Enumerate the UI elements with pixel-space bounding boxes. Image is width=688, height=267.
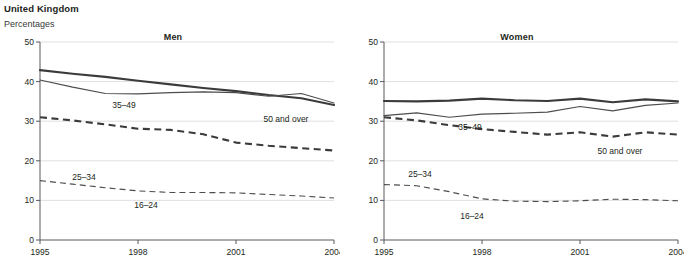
- svg-text:0: 0: [373, 235, 378, 245]
- series-label-50 and over: 50 and over: [264, 114, 309, 124]
- svg-text:20: 20: [25, 156, 35, 166]
- series-line-25-34: [384, 117, 678, 136]
- chart-panel-men: Men 01020304050199519982001200435–4950 a…: [6, 30, 340, 262]
- svg-text:2004: 2004: [669, 247, 684, 257]
- svg-text:40: 40: [25, 77, 35, 87]
- footnote: [0, 262, 688, 267]
- svg-text:50: 50: [25, 37, 35, 47]
- svg-text:1998: 1998: [129, 247, 148, 257]
- series-line-50 and over: [40, 80, 334, 103]
- series-label-16-24: 16–24: [134, 200, 158, 210]
- svg-text:20: 20: [369, 156, 379, 166]
- svg-text:2001: 2001: [227, 247, 246, 257]
- series-label-50 and over: 50 and over: [598, 146, 643, 156]
- page-title: United Kingdom: [4, 3, 79, 14]
- line-chart-women: 01020304050199519982001200435–4950 and o…: [350, 30, 684, 262]
- svg-text:10: 10: [369, 195, 379, 205]
- series-line-50 and over: [384, 103, 678, 117]
- series-label-35-49: 35–49: [458, 122, 482, 132]
- svg-text:10: 10: [25, 195, 35, 205]
- svg-text:1995: 1995: [375, 247, 394, 257]
- series-label-35-49: 35–49: [112, 100, 136, 110]
- svg-text:2001: 2001: [571, 247, 590, 257]
- svg-text:40: 40: [369, 77, 379, 87]
- series-label-25-34: 25–34: [72, 172, 96, 182]
- svg-text:50: 50: [369, 37, 379, 47]
- svg-text:0: 0: [29, 235, 34, 245]
- svg-text:30: 30: [25, 116, 35, 126]
- svg-text:1995: 1995: [31, 247, 50, 257]
- series-line-16-24: [384, 185, 678, 202]
- series-line-16-24: [40, 181, 334, 198]
- series-line-35-49: [40, 70, 334, 105]
- svg-text:1998: 1998: [473, 247, 492, 257]
- svg-text:30: 30: [369, 116, 379, 126]
- line-chart-men: 01020304050199519982001200435–4950 and o…: [6, 30, 340, 262]
- series-line-35-49: [384, 99, 678, 103]
- series-label-16-24: 16–24: [460, 211, 484, 221]
- series-label-25-34: 25–34: [408, 169, 432, 179]
- chart-panel-women: Women 01020304050199519982001200435–4950…: [350, 30, 684, 262]
- page-subtitle: Percentages: [4, 19, 55, 29]
- svg-text:2004: 2004: [325, 247, 340, 257]
